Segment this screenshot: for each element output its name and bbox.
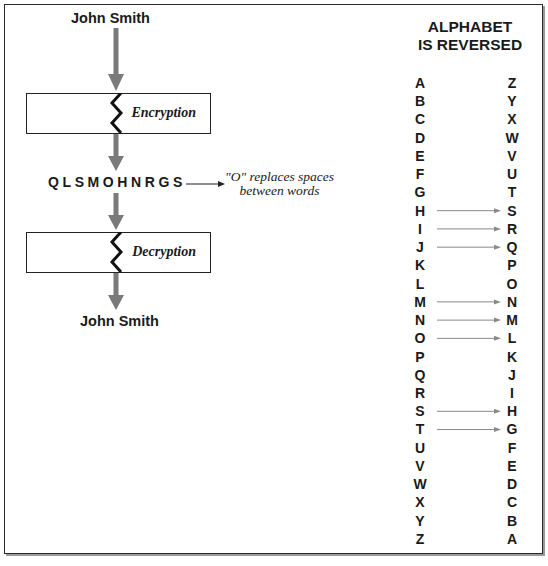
arrowhead-icon <box>494 208 501 213</box>
arrowhead-icon <box>494 318 501 323</box>
arrowhead-icon <box>494 409 501 414</box>
arrowhead-icon <box>494 427 501 432</box>
arrowhead-icon <box>494 336 501 341</box>
arrowhead-icon <box>494 245 501 250</box>
arrowhead-icon <box>494 299 501 304</box>
arrowhead-icon <box>494 226 501 231</box>
mapping-arrows <box>0 0 548 566</box>
